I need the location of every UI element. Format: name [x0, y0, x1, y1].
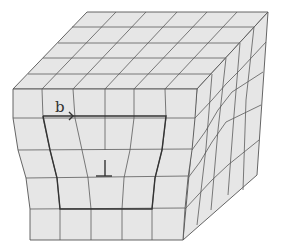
dislocation-lattice-diagram: b	[0, 0, 281, 250]
burgers-vector-label: b	[55, 98, 65, 116]
